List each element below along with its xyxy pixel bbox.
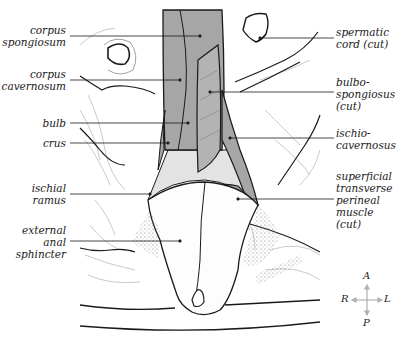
label-bulbospongiosus: bulbo- spongiosus (cut) [336, 76, 395, 112]
label-corpus-cavernosum: corpus cavernosum [2, 68, 67, 92]
compass-right: R [341, 293, 349, 304]
label-external-anal-sphincter: external anal sphincter [16, 224, 66, 260]
label-ischial-ramus: ischial ramus [32, 182, 66, 206]
label-bulb: bulb [42, 117, 66, 129]
compass-anterior: A [363, 270, 370, 281]
orientation-compass-arrows [352, 285, 382, 315]
left-spermatic-cord-stump [104, 39, 136, 74]
compass-posterior: P [363, 317, 370, 328]
label-ischiocavernosus: ischio- cavernosus [336, 127, 396, 151]
anatomy-figure: corpus spongiosum corpus cavernosum bulb… [0, 0, 400, 344]
bulbospongiosus-shape [197, 45, 221, 172]
label-corpus-spongiosum: corpus spongiosum [2, 24, 66, 48]
label-crus: crus [43, 137, 66, 149]
label-spermatic-cord: spermatic cord (cut) [336, 26, 389, 50]
compass-left: L [384, 293, 391, 304]
label-superficial-transverse-perineal: superficial transverse perineal muscle (… [336, 170, 392, 230]
